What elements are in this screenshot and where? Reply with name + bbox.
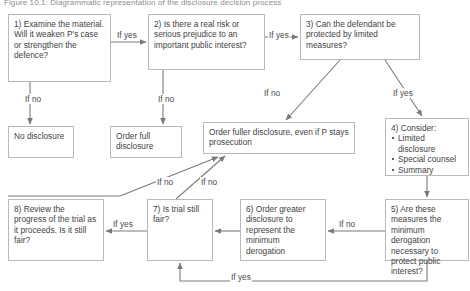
node-3-text: 3) Can the defendant be protected by lim… [306,19,414,50]
edge-label-n2-to-n3: If yes [268,30,290,40]
node-8-review-progress[interactable]: 8) Review the progress of the trial as i… [8,199,104,261]
edge-label-n1-to-n2: If yes [116,30,138,40]
node-4-consider[interactable]: 4) Consider: Limited disclosure Special … [385,118,469,176]
node-2-text: 2) Is there a real risk or serious preju… [154,19,259,50]
node-4-bullet: Limited disclosure [391,133,463,154]
edge-label-n7-to-n8: If yes [112,219,134,229]
node-1-text: 1) Examine the material. Will it weaken … [14,19,105,61]
node-4-title: 4) Consider: [391,123,463,133]
node-order-full-disclosure[interactable]: Order full disclosure [110,126,182,158]
edge-label-n5-to-n7: If yes [230,272,252,282]
node-8-text: 8) Review the progress of the trial as i… [14,204,98,246]
node-order-full-disclosure-text: Order full disclosure [116,131,176,152]
edge-label-n8-to-fuller-disclosure: If no [200,177,218,187]
edge-label-n7-to-fuller-disclosure: If no [156,177,174,187]
node-5-minimum-derogation[interactable]: 5) Are these measures the minimum deroga… [385,199,469,261]
node-order-fuller-disclosure-text: Order fuller disclosure, even if P stays… [209,127,349,148]
node-3-limited-measures[interactable]: 3) Can the defendant be protected by lim… [300,14,420,60]
node-order-fuller-disclosure[interactable]: Order fuller disclosure, even if P stays… [203,122,355,154]
node-6-order-greater-disclosure[interactable]: 6) Order greater disclosure to represent… [240,199,326,261]
flowchart-diagram: Figure 10.1: Diagrammatic representation… [0,0,470,291]
node-4-bullet-list: Limited disclosure Special counsel Summa… [391,133,463,175]
node-7-is-trial-still-fair[interactable]: 7) Is trial still fair? [147,199,213,261]
node-no-disclosure[interactable]: No disclosure [8,126,74,158]
edge-label-n1-to-no-disclosure: If no [24,94,42,104]
edge-label-n3-to-fuller-disclosure: If no [263,88,281,98]
node-5-text: 5) Are these measures the minimum deroga… [391,204,463,277]
node-6-text: 6) Order greater disclosure to represent… [246,204,320,256]
node-4-bullet: Summary [391,165,463,175]
node-4-bullet: Special counsel [391,154,463,164]
edge-label-n2-to-full-disclosure: If no [157,94,175,104]
edge-label-n3-to-n4: If yes [392,88,414,98]
node-7-text: 7) Is trial still fair? [153,204,207,225]
node-1-examine-material[interactable]: 1) Examine the material. Will it weaken … [8,14,111,82]
edge-label-n5-to-n6: If no [338,219,356,229]
node-no-disclosure-text: No disclosure [14,131,68,141]
node-2-real-risk[interactable]: 2) Is there a real risk or serious preju… [148,14,265,70]
